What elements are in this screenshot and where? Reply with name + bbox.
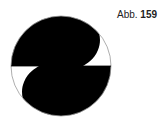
caption-number: 159 xyxy=(140,9,157,20)
figure-caption: Abb. 159 xyxy=(117,9,157,20)
caption-prefix: Abb. xyxy=(117,9,138,20)
